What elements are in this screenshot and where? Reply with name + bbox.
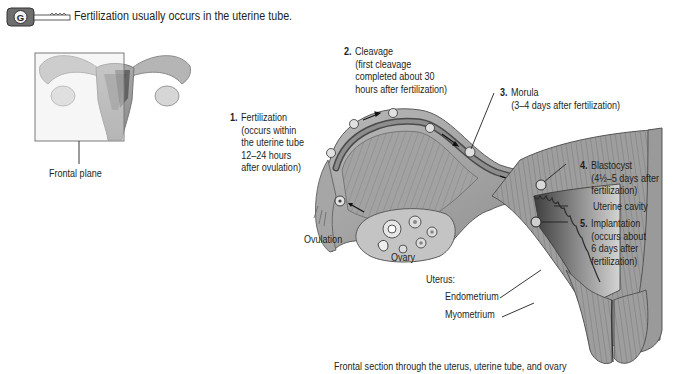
label-uterus: Uterus: xyxy=(426,273,455,286)
label-ovulation: Ovulation xyxy=(304,233,342,246)
label-endometrium: Endometrium xyxy=(445,290,499,303)
label-ovary: Ovary xyxy=(391,251,415,264)
label-implantation: 5.Implantation (occurs about 6 days afte… xyxy=(580,217,646,267)
label-fertilization: 1.Fertilization (occurs within the uteri… xyxy=(230,111,304,174)
label-uterine-cavity: Uterine cavity xyxy=(593,200,648,213)
label-cleavage: 2.Cleavage (first cleavage completed abo… xyxy=(344,45,447,95)
figure-caption: Frontal section through the uterus, uter… xyxy=(334,360,566,373)
label-blastocyst: 4.Blastocyst (4½–5 days after fertilizat… xyxy=(580,159,659,197)
label-morula: 3.Morula (3–4 days after fertilization) xyxy=(500,86,620,111)
label-myometrium: Myometrium xyxy=(445,308,495,321)
